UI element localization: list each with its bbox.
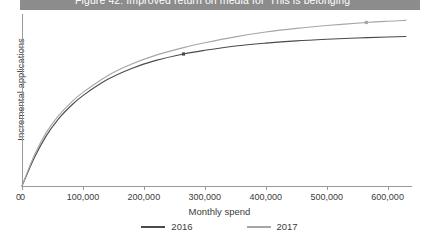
legend-swatch-icon	[141, 226, 165, 228]
series-line-2017	[22, 20, 406, 186]
chart-legend: 20162017	[0, 222, 439, 232]
chart-plot-area: Incremental applications 0100,000200,000…	[0, 10, 439, 210]
series-lines	[0, 10, 439, 210]
legend-item-2016[interactable]: 2016	[141, 222, 192, 232]
series-marker-2017	[365, 21, 368, 24]
legend-label: 2016	[171, 222, 192, 232]
series-marker-2016	[182, 52, 185, 55]
page-title: Figure 42: Improved return on media for …	[20, 0, 352, 10]
series-line-2016	[22, 37, 406, 186]
legend-label: 2017	[277, 222, 298, 232]
figure-root: Figure 42: Improved return on media for …	[0, 0, 439, 241]
legend-item-2017[interactable]: 2017	[247, 222, 298, 232]
legend-swatch-icon	[247, 226, 271, 228]
figure-title-band: Figure 42: Improved return on media for …	[20, 0, 420, 10]
